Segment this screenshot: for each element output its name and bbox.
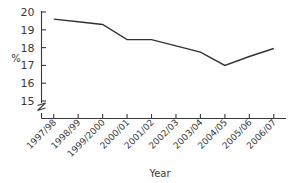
y-axis-ticks xyxy=(42,12,47,101)
y-axis-tick-label: 19 xyxy=(21,24,35,37)
y-axis-tick-label: 16 xyxy=(21,77,35,90)
y-axis-tick-labels: 151617181920 xyxy=(21,6,35,108)
x-axis-tick-labels: 1997/981998/991999/20002000/012001/02200… xyxy=(25,117,279,159)
chart-figure: 151617181920 1997/981998/991999/20002000… xyxy=(0,0,292,183)
y-axis-tick-label: 15 xyxy=(21,95,35,108)
y-axis-tick-label: 17 xyxy=(21,59,35,72)
y-axis-tick-label: 18 xyxy=(21,42,35,55)
y-axis-tick-label: 20 xyxy=(21,6,35,19)
x-axis-ticks xyxy=(54,114,274,119)
x-axis-title: Year xyxy=(148,168,171,179)
y-axis-break-icon xyxy=(38,103,46,111)
y-axis-title: % xyxy=(11,53,21,64)
line-chart-canvas: 151617181920 1997/981998/991999/20002000… xyxy=(0,0,292,183)
data-series-line xyxy=(54,19,274,65)
